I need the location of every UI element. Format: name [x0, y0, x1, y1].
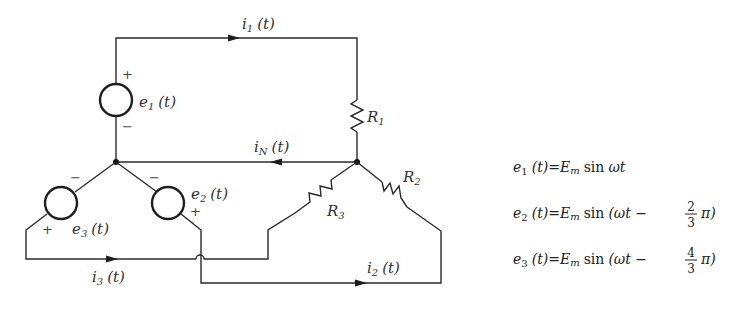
- e2-plus-sign: +: [190, 204, 201, 219]
- svg-text:4: 4: [687, 246, 695, 260]
- arrow-i2-icon: [355, 280, 367, 287]
- three-phase-circuit-diagram: i1(t) iN(t) e1(t) e2(t) e3(t) i3(t) i2(t…: [0, 0, 729, 312]
- svg-text:π): π): [700, 251, 716, 267]
- svg-text:e1(t)=Emsinωt: e1(t)=Emsinωt: [513, 159, 626, 177]
- label-iN: iN(t): [254, 138, 289, 157]
- label-e3: e3(t): [72, 220, 109, 239]
- svg-text:2: 2: [687, 200, 695, 214]
- equation-e2: e2(t)=Emsin(ωt − 2 3 π): [513, 200, 716, 230]
- label-i1: i1(t): [242, 15, 275, 34]
- label-R2: R2: [402, 168, 421, 187]
- equation-e3: e3(t)=Emsin(ωt − 4 3 π): [513, 246, 716, 276]
- resistor-R3: [295, 162, 357, 213]
- svg-text:e3(t)=Emsin(ωt −: e3(t)=Emsin(ωt −: [513, 251, 647, 269]
- label-R1: R1: [366, 108, 385, 127]
- label-i2: i2(t): [367, 259, 400, 278]
- e3-plus-sign: +: [42, 222, 53, 237]
- label-R3: R3: [326, 202, 345, 221]
- svg-text:3: 3: [687, 262, 695, 276]
- e3-minus-sign: −: [70, 170, 81, 185]
- arrow-iN-icon: [270, 159, 282, 166]
- wire-top: [116, 35, 357, 101]
- resistor-R2: [357, 162, 407, 207]
- arrow-i1-icon: [228, 35, 240, 42]
- e1-minus-sign: −: [122, 119, 133, 134]
- resistor-R1: [351, 100, 363, 162]
- arrow-i3-icon: [106, 256, 118, 263]
- neutral-wire: [113, 159, 360, 166]
- svg-text:3: 3: [687, 216, 695, 230]
- e2-minus-sign: −: [149, 170, 160, 185]
- label-e1: e1(t): [139, 93, 176, 112]
- e1-plus-sign: +: [122, 67, 133, 82]
- svg-text:π): π): [700, 205, 716, 221]
- svg-text:e2(t)=Emsin(ωt −: e2(t)=Emsin(ωt −: [513, 205, 647, 223]
- label-e2: e2(t): [191, 185, 228, 204]
- equation-e1: e1(t)=Emsinωt: [513, 159, 626, 177]
- label-i3: i3(t): [92, 268, 125, 287]
